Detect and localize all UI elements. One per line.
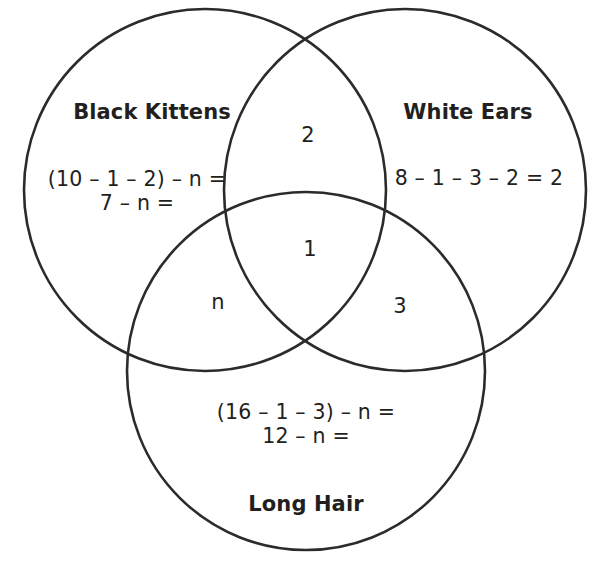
- set-label-long-hair: Long Hair: [248, 492, 363, 518]
- set-label-white-ears: White Ears: [403, 100, 532, 126]
- equation-block-black-kittens: (10 – 1 – 2) – n = 7 – n =: [48, 167, 226, 215]
- equation-long-hair-line-2: 12 – n =: [217, 424, 395, 448]
- equation-black-kittens-line-2: 7 – n =: [48, 191, 226, 215]
- region-value-all-three: 1: [303, 237, 316, 263]
- venn-diagram: Black Kittens (10 – 1 – 2) – n = 7 – n =…: [0, 0, 597, 565]
- region-value-black-and-long: n: [211, 290, 224, 316]
- equation-black-kittens-line-1: (10 – 1 – 2) – n =: [48, 167, 226, 191]
- equation-block-long-hair: (16 – 1 – 3) – n = 12 – n =: [217, 400, 395, 448]
- equation-white-ears-line-1: 8 – 1 – 3 – 2 = 2: [395, 166, 564, 190]
- venn-circles-group: [0, 0, 597, 565]
- region-value-white-and-long: 3: [393, 294, 406, 320]
- set-label-black-kittens: Black Kittens: [73, 100, 231, 126]
- region-value-black-and-white: 2: [301, 123, 314, 149]
- equation-block-white-ears: 8 – 1 – 3 – 2 = 2: [395, 166, 564, 190]
- equation-long-hair-line-1: (16 – 1 – 3) – n =: [217, 400, 395, 424]
